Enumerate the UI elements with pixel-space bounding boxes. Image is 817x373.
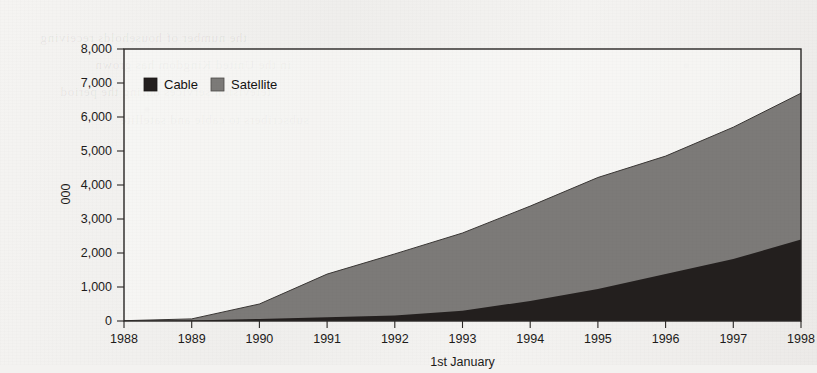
- y-tick-label: 5,000: [81, 144, 112, 158]
- x-tick-label: 1996: [652, 332, 680, 346]
- x-tick-label: 1995: [584, 332, 612, 346]
- y-tick-label: 0: [105, 314, 112, 328]
- y-tick-label: 1,000: [81, 280, 112, 294]
- legend-swatch-satellite: [211, 78, 224, 91]
- legend-swatch-cable: [144, 78, 157, 91]
- x-axis-tick-labels: 1988 1989 1990 1991 1992 1993 1994 1995 …: [110, 332, 815, 346]
- x-tick-label: 1994: [516, 332, 544, 346]
- y-tick-label: 4,000: [81, 178, 112, 192]
- y-tick-label: 8,000: [81, 42, 112, 56]
- y-axis-tick-labels: 8,000 7,000 6,000 5,000 4,000 3,000 2,00…: [81, 42, 112, 328]
- x-tick-label: 1997: [719, 332, 747, 346]
- y-tick-label: 6,000: [81, 110, 112, 124]
- y-tick-label: 2,000: [81, 246, 112, 260]
- y-tick-label: 3,000: [81, 212, 112, 226]
- chart-canvas: 8,000 7,000 6,000 5,000 4,000 3,000 2,00…: [40, 16, 817, 373]
- chart-legend: Cable Satellite: [144, 77, 277, 92]
- x-tick-label: 1990: [245, 332, 273, 346]
- y-tick-label: 7,000: [81, 76, 112, 90]
- legend-label-satellite: Satellite: [231, 77, 277, 92]
- x-tick-label: 1992: [381, 332, 409, 346]
- stacked-area-chart: 8,000 7,000 6,000 5,000 4,000 3,000 2,00…: [40, 16, 817, 373]
- x-tick-label: 1988: [110, 332, 138, 346]
- x-axis-ticks: [124, 321, 801, 328]
- x-tick-label: 1998: [787, 332, 815, 346]
- x-tick-label: 1989: [178, 332, 206, 346]
- y-axis-ticks: [117, 49, 124, 321]
- x-tick-label: 1993: [449, 332, 477, 346]
- y-axis-title: 000: [59, 184, 73, 205]
- x-axis-title: 1st January: [430, 355, 495, 369]
- x-tick-label: 1991: [313, 332, 341, 346]
- legend-label-cable: Cable: [164, 77, 198, 92]
